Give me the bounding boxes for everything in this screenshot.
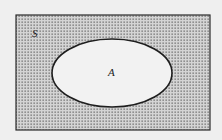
universe-label: S [32,27,38,39]
set-a-label: A [107,66,115,78]
venn-diagram: S A [0,0,222,140]
